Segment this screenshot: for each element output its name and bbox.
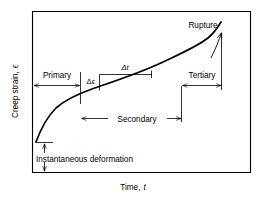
y-axis-label: Creep strain,ϵ <box>11 64 20 118</box>
primary-label: Primary <box>43 71 72 80</box>
tertiary-label: Tertiary <box>189 71 217 80</box>
delta-strain-label: Δϵ <box>87 77 96 86</box>
secondary-label: Secondary <box>117 115 157 124</box>
creep-curve-figure: Rupture Primary Δϵ Δt Secondary <box>0 0 270 198</box>
creep-curve-svg: Rupture Primary Δϵ Δt Secondary <box>0 0 270 198</box>
plot-frame <box>33 12 251 173</box>
secondary-region: Secondary <box>82 86 182 124</box>
creep-curve-path <box>36 22 221 142</box>
slope-triangle: Δϵ Δt <box>87 63 152 91</box>
delta-time-label: Δt <box>120 63 129 72</box>
x-axis-label: Time,t <box>120 183 146 192</box>
instantaneous-deformation-label: Instantaneous deformation <box>36 155 133 164</box>
primary-region: Primary <box>35 71 81 104</box>
instantaneous-deformation-annotation: Instantaneous deformation <box>36 143 133 172</box>
y-axis-label-group: Creep strain,ϵ <box>11 64 20 118</box>
x-axis-label-group: Time,t <box>120 183 146 192</box>
rupture-label: Rupture <box>188 21 218 30</box>
